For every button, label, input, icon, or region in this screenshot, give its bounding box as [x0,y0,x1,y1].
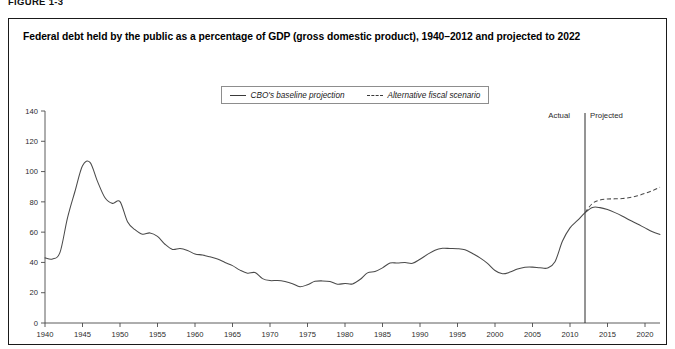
svg-text:1940: 1940 [37,330,54,339]
svg-text:2005: 2005 [524,330,541,339]
series-line-baseline [45,161,660,287]
chart-svg: 020406080100120140 194019451950195519601… [9,19,668,346]
svg-text:0: 0 [34,319,38,328]
series-line-alternative [585,187,660,213]
svg-text:140: 140 [25,107,38,116]
figure-panel: Federal debt held by the public as a per… [8,18,667,345]
svg-text:1960: 1960 [187,330,204,339]
svg-text:2015: 2015 [599,330,616,339]
svg-text:1980: 1980 [337,330,354,339]
svg-text:2000: 2000 [487,330,504,339]
x-axis: 1940194519501955196019651970197519801985… [37,323,660,339]
svg-text:1950: 1950 [112,330,129,339]
svg-text:1955: 1955 [149,330,166,339]
svg-text:2010: 2010 [562,330,579,339]
svg-text:2020: 2020 [637,330,654,339]
svg-text:1965: 1965 [224,330,241,339]
svg-text:1975: 1975 [299,330,316,339]
figure-number-label: FIGURE 1-3 [8,0,63,8]
svg-text:40: 40 [30,258,38,267]
svg-text:60: 60 [30,228,38,237]
plot-area: 020406080100120140 194019451950195519601… [9,19,668,346]
svg-text:1970: 1970 [262,330,279,339]
svg-text:20: 20 [30,288,38,297]
svg-text:120: 120 [25,137,38,146]
svg-text:80: 80 [30,198,38,207]
y-axis: 020406080100120140 [25,107,45,328]
svg-text:1995: 1995 [449,330,466,339]
svg-text:100: 100 [25,167,38,176]
svg-text:1990: 1990 [412,330,429,339]
svg-text:1945: 1945 [74,330,91,339]
svg-text:1985: 1985 [374,330,391,339]
